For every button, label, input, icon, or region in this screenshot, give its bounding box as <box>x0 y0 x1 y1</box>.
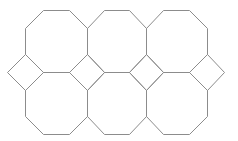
tiling-canvas <box>0 0 238 141</box>
square-3 <box>130 55 164 91</box>
square-4 <box>190 55 225 91</box>
square-2 <box>70 55 105 91</box>
tiling-diagram <box>0 0 238 141</box>
square-1 <box>8 55 44 91</box>
